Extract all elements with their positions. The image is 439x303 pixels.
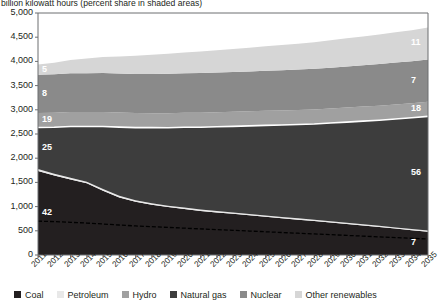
legend-item-label: Petroleum bbox=[68, 290, 109, 300]
y-axis-tick-label: 4,500 bbox=[0, 31, 33, 41]
legend-item-label: Other renewables bbox=[306, 290, 377, 300]
share-label-right-other-renewables: 11 bbox=[411, 37, 421, 47]
legend-item-label: Nuclear bbox=[251, 290, 282, 300]
legend-swatch-icon bbox=[14, 291, 21, 298]
legend-item-other-renewables[interactable]: Other renewables bbox=[295, 290, 377, 300]
share-label-right-nuclear: 7 bbox=[411, 75, 416, 85]
y-axis-tick-label: 3,000 bbox=[0, 104, 33, 114]
share-label-left-natural-gas: 25 bbox=[42, 142, 52, 152]
y-axis-tick-label: 0 bbox=[0, 249, 33, 259]
chart-legend: CoalPetroleumHydroNatural gasNuclearOthe… bbox=[0, 286, 432, 303]
share-label-left-nuclear: 8 bbox=[42, 88, 47, 98]
legend-item-nuclear[interactable]: Nuclear bbox=[240, 290, 282, 300]
y-axis-tick-label: 2,500 bbox=[0, 128, 33, 138]
y-axis-tick-label: 1,000 bbox=[0, 201, 33, 211]
share-label-left-hydro: 19 bbox=[42, 114, 52, 124]
legend-item-label: Hydro bbox=[133, 290, 157, 300]
legend-item-coal[interactable]: Coal bbox=[14, 290, 44, 300]
legend-swatch-icon bbox=[240, 291, 247, 298]
legend-swatch-icon bbox=[170, 291, 177, 298]
y-axis-tick-label: 3,500 bbox=[0, 80, 33, 90]
y-axis-tick-label: 4,000 bbox=[0, 55, 33, 65]
legend-item-label: Coal bbox=[25, 290, 44, 300]
y-axis-tick-label: 1,500 bbox=[0, 176, 33, 186]
legend-item-petroleum[interactable]: Petroleum bbox=[57, 290, 109, 300]
share-label-left-other-renewables: 5 bbox=[42, 64, 47, 74]
y-axis-tick-label: 5,000 bbox=[0, 7, 33, 17]
legend-swatch-icon bbox=[57, 291, 64, 298]
y-axis-tick-label: 500 bbox=[0, 225, 33, 235]
legend-item-hydro[interactable]: Hydro bbox=[122, 290, 157, 300]
share-label-right-hydro: 18 bbox=[411, 103, 421, 113]
y-axis-tick-label: 2,000 bbox=[0, 152, 33, 162]
legend-item-natural-gas[interactable]: Natural gas bbox=[170, 290, 227, 300]
share-label-right-coal: 7 bbox=[411, 237, 416, 247]
legend-item-label: Natural gas bbox=[181, 290, 227, 300]
share-label-left-coal: 42 bbox=[42, 207, 52, 217]
legend-swatch-icon bbox=[122, 291, 129, 298]
share-label-right-natural-gas: 56 bbox=[411, 167, 421, 177]
legend-swatch-icon bbox=[295, 291, 302, 298]
